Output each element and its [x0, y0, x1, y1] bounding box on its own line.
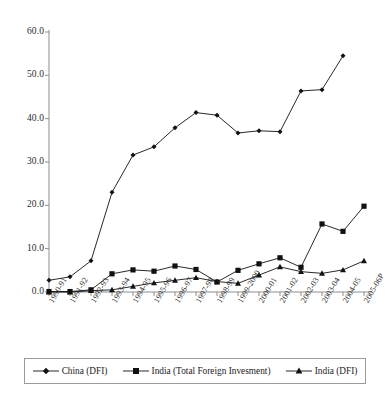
square-marker-icon	[151, 269, 156, 274]
square-marker-icon	[123, 366, 149, 376]
y-axis-tick-label: 50.0	[4, 69, 44, 79]
triangle-marker-icon	[361, 258, 367, 263]
y-axis-tick-label: 0.0	[4, 286, 44, 296]
legend-item[interactable]: India (Total Foreign Invesment)	[123, 366, 271, 376]
y-axis-tick-label: 60.0	[4, 26, 44, 36]
legend-label: India (Total Foreign Invesment)	[152, 366, 271, 376]
square-marker-icon	[172, 263, 177, 268]
square-marker-icon	[193, 267, 198, 272]
diamond-marker-icon	[278, 129, 283, 134]
square-marker-icon	[277, 255, 282, 260]
square-marker-icon	[130, 267, 135, 272]
legend-label: China (DFI)	[62, 366, 108, 376]
y-axis-tick-labels: 0.010.020.030.040.050.060.0	[2, 0, 44, 300]
diamond-marker-icon	[341, 53, 346, 58]
square-marker-icon	[256, 261, 261, 266]
chart-legend: China (DFI)India (Total Foreign Invesmen…	[24, 358, 366, 384]
legend-label: India (DFI)	[315, 366, 358, 376]
y-axis-tick-label: 20.0	[4, 199, 44, 209]
line-chart: 0.010.020.030.040.050.060.0 1990-911991-…	[0, 0, 390, 397]
series-line-0	[49, 56, 343, 280]
legend-item[interactable]: India (DFI)	[286, 366, 358, 376]
triangle-marker-icon	[277, 264, 283, 269]
y-axis-tick-label: 10.0	[4, 243, 44, 253]
plot-area	[0, 0, 390, 300]
diamond-marker-icon	[110, 190, 115, 195]
triangle-marker-icon	[286, 366, 312, 376]
diamond-marker-icon	[131, 153, 136, 158]
diamond-marker-icon	[33, 366, 59, 376]
square-marker-icon	[319, 221, 324, 226]
y-axis-tick-label: 30.0	[4, 156, 44, 166]
square-marker-icon	[340, 229, 345, 234]
diamond-marker-icon	[299, 88, 304, 93]
diamond-marker-icon	[257, 128, 262, 133]
triangle-marker-icon	[340, 267, 346, 272]
square-marker-icon	[235, 268, 240, 273]
legend-item[interactable]: China (DFI)	[33, 366, 108, 376]
y-axis-tick-label: 40.0	[4, 113, 44, 123]
diamond-marker-icon	[320, 87, 325, 92]
chart-canvas	[0, 0, 390, 300]
x-axis-tick-labels: 1990-911991-921992-931993-941994-951995-…	[0, 296, 390, 356]
square-marker-icon	[109, 271, 114, 276]
square-marker-icon	[361, 204, 366, 209]
diamond-marker-icon	[47, 278, 52, 283]
